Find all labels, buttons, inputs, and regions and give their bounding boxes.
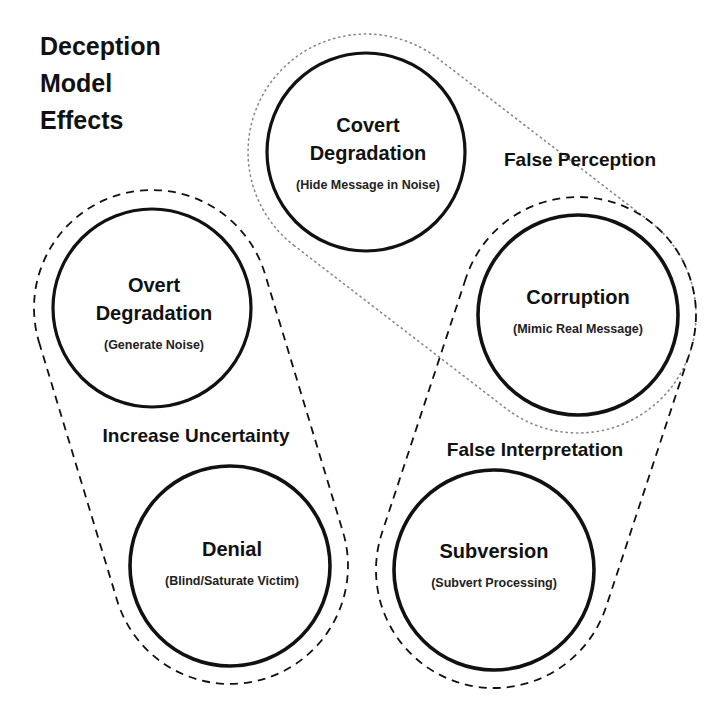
false-interpretation-label: False Interpretation [447,439,623,461]
node-title: Corruption [526,283,629,311]
diagram-title: Deception Model Effects [40,28,161,139]
node-subversion: Subversion (Subvert Processing) [394,464,594,664]
false-perception-label: False Perception [504,149,656,171]
title-line: Effects [40,102,161,139]
node-title: Overt [128,271,180,299]
increase-uncertainty-label: Increase Uncertainty [103,425,290,447]
node-title: Denial [202,535,262,563]
node-title: Degradation [310,139,427,167]
node-subtitle: (Hide Message in Noise) [296,177,440,193]
node-corruption: Corruption (Mimic Real Message) [478,210,678,410]
node-subtitle: (Subvert Processing) [431,575,557,591]
node-overt-degradation: Overt Degradation (Generate Noise) [54,212,254,412]
node-title: Degradation [96,299,213,327]
node-covert-degradation: Covert Degradation (Hide Message in Nois… [268,52,468,252]
node-title: Covert [336,111,399,139]
title-line: Deception [40,28,161,65]
title-line: Model [40,65,161,102]
node-title: Subversion [440,537,549,565]
node-subtitle: (Blind/Saturate Victim) [165,573,299,589]
node-subtitle: (Mimic Real Message) [513,321,643,337]
deception-model-diagram: Deception Model Effects Increase Uncerta… [0,0,724,717]
node-denial: Denial (Blind/Saturate Victim) [132,462,332,662]
node-subtitle: (Generate Noise) [104,337,204,353]
